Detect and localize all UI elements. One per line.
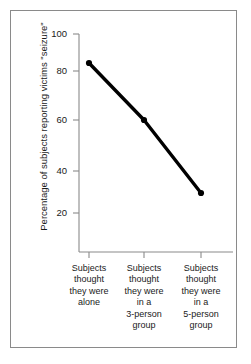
x-label-line: in a [170, 297, 232, 308]
x-label-line: 5-person [170, 309, 232, 320]
x-label-line: group [113, 320, 175, 331]
x-label-line: in a [113, 297, 175, 308]
x-label-line: alone [58, 297, 120, 308]
x-label-line: they were [170, 286, 232, 297]
y-tick-label-80: 80 [39, 66, 67, 76]
x-label-line: Subjects [58, 263, 120, 274]
x-label-line: Subjects [170, 263, 232, 274]
data-point-group2 [141, 117, 147, 123]
x-tick-label-group1: Subjects thought they were alone [58, 263, 120, 309]
x-label-line: thought [58, 274, 120, 285]
data-point-group3 [198, 190, 204, 196]
x-label-line: thought [170, 274, 232, 285]
data-point-group1 [86, 60, 92, 66]
x-label-line: thought [113, 274, 175, 285]
plot-area: Percentage of subjects reporting victims… [11, 11, 238, 349]
y-tick-label-60: 60 [39, 115, 67, 125]
x-label-line: they were [58, 286, 120, 297]
x-label-line: Subjects [113, 263, 175, 274]
series-line [89, 63, 201, 193]
y-tick-label-100: 100 [39, 29, 67, 39]
figure-canvas: Percentage of subjects reporting victims… [0, 0, 251, 364]
y-tick-label-40: 40 [39, 166, 67, 176]
y-tick-label-20: 20 [39, 208, 67, 218]
x-label-line: group [170, 320, 232, 331]
chart-frame: Percentage of subjects reporting victims… [10, 10, 237, 348]
x-tick-label-group2: Subjects thought they were in a 3-person… [113, 263, 175, 331]
x-tick-label-group3: Subjects thought they were in a 5-person… [170, 263, 232, 331]
x-label-line: 3-person [113, 309, 175, 320]
x-label-line: they were [113, 286, 175, 297]
